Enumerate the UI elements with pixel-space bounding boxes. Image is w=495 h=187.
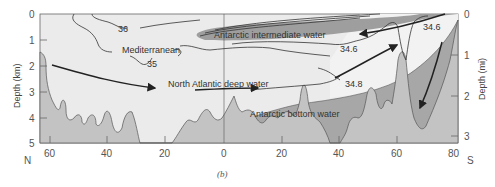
bottom-tick-60s: 60 <box>391 148 403 159</box>
right-tick-2: 2 <box>464 91 470 102</box>
label-iso-34-6-b: 34.6 <box>423 22 441 32</box>
left-axis-title: Depth (km) <box>12 63 22 108</box>
right-tick-3: 3 <box>464 131 470 142</box>
atlantic-cross-section: Antarctic intermediate water Mediterrane… <box>0 0 495 187</box>
right-axis-title: Depth (mi) <box>477 58 487 100</box>
left-tick-4: 4 <box>29 113 35 124</box>
label-mediterranean: Mediterranean <box>122 45 180 55</box>
label-antarctic-bottom: Antarctic bottom water <box>250 109 340 119</box>
label-antarctic-intermediate: Antarctic intermediate water <box>214 30 326 40</box>
label-iso-35: 35 <box>147 59 157 69</box>
ocean-circulation-figure: Antarctic intermediate water Mediterrane… <box>0 0 495 187</box>
right-tick-1: 1 <box>464 50 470 61</box>
left-tick-5: 5 <box>29 138 35 149</box>
label-iso-36: 36 <box>118 24 128 34</box>
north-label: N <box>24 155 31 166</box>
label-iso-34-8: 34.8 <box>345 79 363 89</box>
bottom-tick-80s: 80 <box>448 148 460 159</box>
bottom-tick-40s: 40 <box>333 148 345 159</box>
label-iso-34-6-a: 34.6 <box>340 44 358 54</box>
left-tick-3: 3 <box>29 87 35 98</box>
south-label: S <box>467 155 474 166</box>
bottom-tick-40n: 40 <box>101 148 113 159</box>
bottom-tick-60n: 60 <box>44 148 56 159</box>
bottom-tick-20n: 20 <box>159 148 171 159</box>
left-tick-1: 1 <box>29 35 35 46</box>
left-tick-2: 2 <box>29 61 35 72</box>
right-tick-0: 0 <box>464 9 470 20</box>
figure-caption: (b) <box>217 169 228 179</box>
bottom-tick-0: 0 <box>221 148 227 159</box>
bottom-tick-20s: 20 <box>276 148 288 159</box>
label-north-atlantic-deep: North Atlantic deep water <box>168 79 269 89</box>
left-tick-0: 0 <box>29 9 35 20</box>
